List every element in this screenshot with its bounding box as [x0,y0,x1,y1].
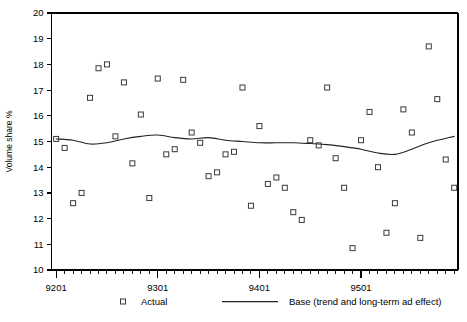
x-axis-ticks [56,270,454,278]
base-trend-line [56,135,454,155]
chart-container: 1011121314151617181920 9201930194019501 … [0,0,467,322]
data-point-marker [104,62,109,67]
base-line-path [56,135,454,155]
actual-data-points [54,44,457,251]
y-tick-label: 12 [33,213,44,224]
data-point-marker [223,152,228,157]
data-point-marker [274,175,279,180]
data-point-marker [409,130,414,135]
data-point-marker [71,201,76,206]
data-point-marker [325,85,330,90]
data-point-marker [291,210,296,215]
data-point-marker [232,149,237,154]
data-point-marker [282,185,287,190]
data-point-marker [121,80,126,85]
data-point-marker [367,109,372,114]
data-point-marker [138,112,143,117]
x-tick-label: 9301 [147,282,168,293]
data-point-marker [392,201,397,206]
y-tick-label: 18 [33,59,44,70]
data-point-marker [426,44,431,49]
data-point-marker [418,235,423,240]
data-point-marker [443,157,448,162]
data-point-marker [96,66,101,71]
data-point-marker [257,124,262,129]
data-point-marker [206,174,211,179]
data-point-marker [401,107,406,112]
legend-label-base: Base (trend and long-term ad effect) [289,296,441,307]
x-tick-label: 9201 [46,282,67,293]
data-point-marker [113,134,118,139]
y-tick-label: 14 [33,162,44,173]
data-point-marker [308,138,313,143]
data-point-marker [181,77,186,82]
y-tick-label: 15 [33,136,44,147]
data-point-marker [240,85,245,90]
data-point-marker [172,147,177,152]
y-tick-label: 16 [33,110,44,121]
y-tick-label: 17 [33,85,44,96]
y-tick-label: 10 [33,264,44,275]
data-point-marker [215,170,220,175]
y-tick-label: 13 [33,187,44,198]
data-point-marker [299,217,304,222]
data-point-marker [88,95,93,100]
y-tick-label: 20 [33,7,44,18]
data-point-marker [452,185,457,190]
data-point-marker [350,246,355,251]
x-axis-tick-labels: 9201930194019501 [46,282,372,293]
data-point-marker [62,145,67,150]
x-tick-label: 9501 [350,282,371,293]
data-point-marker [333,156,338,161]
y-axis-title-text: Volume share % [4,110,14,172]
data-point-marker [189,130,194,135]
data-point-marker [79,190,84,195]
data-point-marker [147,196,152,201]
chart-legend: ActualBase (trend and long-term ad effec… [121,296,442,307]
data-point-marker [435,97,440,102]
legend-label-actual: Actual [141,296,167,307]
data-point-marker [130,161,135,166]
y-axis-tick-labels: 1011121314151617181920 [33,7,44,275]
data-point-marker [164,152,169,157]
data-point-marker [198,140,203,145]
data-point-marker [375,165,380,170]
legend-marker-actual [121,299,126,304]
y-tick-label: 19 [33,33,44,44]
data-point-marker [359,138,364,143]
data-point-marker [155,76,160,81]
chart-svg: 1011121314151617181920 9201930194019501 … [0,0,467,322]
y-axis-title: Volume share % [4,110,14,172]
x-tick-label: 9401 [249,282,270,293]
y-tick-label: 11 [34,239,44,250]
data-point-marker [248,203,253,208]
y-axis-ticks [47,13,52,270]
data-point-marker [265,181,270,186]
data-point-marker [384,230,389,235]
data-point-marker [342,185,347,190]
